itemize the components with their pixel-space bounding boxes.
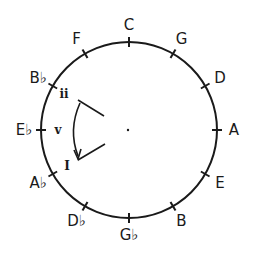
roman-numeral-label: v [54, 123, 63, 137]
note-label: F [72, 30, 81, 48]
note-label: A [229, 121, 240, 139]
note-label: A♭ [29, 174, 46, 192]
bracket-line-upper [78, 100, 104, 116]
note-label: B [176, 212, 186, 230]
bracket-line-lower [78, 144, 105, 160]
note-label: G [176, 30, 188, 48]
note-label: E [215, 174, 224, 192]
roman-numeral-label: ii [59, 87, 69, 101]
note-label: D [214, 69, 226, 87]
note-label: G♭ [120, 226, 139, 244]
roman-numerals: iivI [54, 87, 71, 173]
note-label: B♭ [29, 69, 46, 87]
note-label: C [124, 16, 134, 34]
progression-arc-arrow [73, 103, 80, 156]
note-label: D♭ [67, 212, 86, 230]
center-dot [127, 129, 129, 131]
roman-numeral-label: I [64, 159, 70, 173]
note-label: E♭ [16, 121, 33, 139]
circle-of-fifths-diagram: CGDAEBG♭D♭A♭E♭B♭F iivI [0, 0, 253, 258]
